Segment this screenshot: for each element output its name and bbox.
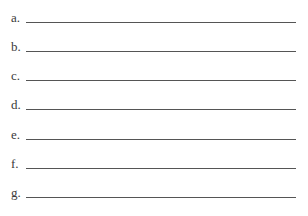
blank-label: a.: [11, 11, 20, 24]
blank-line: [26, 197, 296, 198]
answer-blank-e: e.: [11, 125, 296, 141]
blank-label: g.: [11, 186, 21, 199]
blank-line: [26, 109, 296, 110]
blank-label: d.: [11, 98, 21, 111]
blank-label: f.: [11, 157, 19, 170]
blank-label: e.: [11, 128, 20, 141]
answer-blank-g: g.: [11, 183, 296, 199]
answer-blank-d: d.: [11, 95, 296, 111]
blank-line: [26, 51, 296, 52]
answer-blank-a: a.: [11, 8, 296, 24]
blank-line: [26, 80, 296, 81]
blank-label: b.: [11, 40, 21, 53]
blank-line: [26, 168, 296, 169]
blank-line: [26, 22, 296, 23]
answer-blank-b: b.: [11, 37, 296, 53]
blank-line: [26, 139, 296, 140]
answer-blank-f: f.: [11, 154, 296, 170]
answer-blank-c: c.: [11, 66, 296, 82]
blank-label: c.: [11, 69, 20, 82]
